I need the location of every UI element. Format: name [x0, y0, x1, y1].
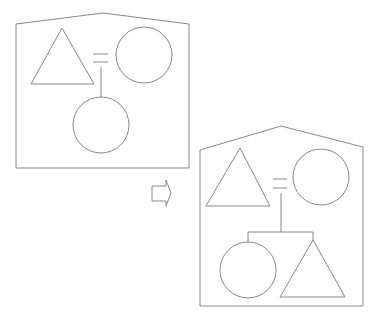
- child-triangle: [280, 240, 345, 297]
- father-triangle: [206, 148, 270, 206]
- mother-circle: [293, 149, 349, 205]
- child-circle: [73, 97, 129, 153]
- household-before: [16, 13, 189, 168]
- child-circle: [220, 242, 276, 298]
- father-triangle: [31, 28, 94, 84]
- house-outline-before: [16, 13, 189, 168]
- genogram-diagram: [0, 0, 378, 321]
- arrow-icon: [152, 180, 171, 206]
- household-after: [200, 126, 363, 306]
- mother-circle: [116, 27, 172, 83]
